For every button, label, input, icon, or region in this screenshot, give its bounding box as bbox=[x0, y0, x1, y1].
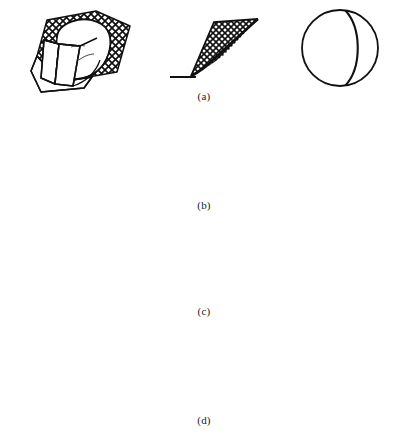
failure-modes-figure: 1 2 1 2 M O (a) (b) (c) (d) bbox=[0, 0, 403, 442]
stereonet-circular bbox=[302, 10, 378, 86]
caption-a: (a) bbox=[174, 90, 234, 102]
caption-c: (c) bbox=[174, 305, 234, 317]
figure-canvas bbox=[0, 0, 403, 442]
caption-d: (d) bbox=[174, 414, 234, 426]
caption-b: (b) bbox=[174, 199, 234, 211]
